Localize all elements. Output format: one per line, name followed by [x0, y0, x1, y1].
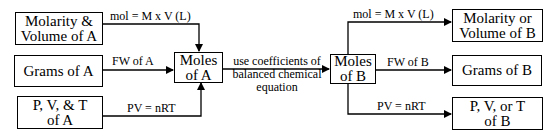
box-pvt-b: P, V, or T of B [452, 97, 543, 130]
box-moles-a: Moles of A [174, 52, 223, 83]
edge-label-molarity-b: mol = M x V (L) [353, 8, 434, 20]
box-grams-a: Grams of A [14, 55, 103, 87]
edge-label-molarity-a: mol = M x V (L) [110, 10, 191, 22]
edge-label-pv-b: PV = nRT [377, 100, 426, 112]
edge-label-coefficients: use coefficients of balanced chemical eq… [228, 55, 326, 94]
box-pvt-a: P, V, & T of A [17, 96, 103, 129]
edge-label-fw-a: FW of A [112, 55, 154, 67]
box-moles-b: Moles of B [330, 54, 376, 84]
edge-label-pv-a: PV = nRT [127, 102, 176, 114]
arrow-molarity-a-to-moles-a [102, 24, 199, 51]
box-molarity-volume-b: Molarity or Volume of B [452, 9, 543, 42]
arrow-moles-b-to-molarity-b [348, 22, 451, 54]
box-molarity-volume-a: Molarity & Volume of A [15, 12, 103, 45]
box-grams-b: Grams of B [452, 55, 542, 86]
edge-label-fw-b: FW of B [387, 56, 429, 68]
